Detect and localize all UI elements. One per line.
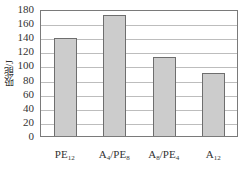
y-tick-label: 140 [8, 32, 34, 43]
bar-a8-pe4 [153, 57, 176, 136]
y-tick-label: 40 [8, 103, 34, 114]
y-tick-label: 20 [8, 117, 34, 128]
bar-pe12 [54, 38, 77, 136]
y-tick-label: 0 [8, 131, 34, 142]
plot-area [40, 10, 238, 137]
bar-a4-pe8 [103, 15, 126, 136]
y-tick-label: 60 [8, 89, 34, 100]
y-tick-label: 160 [8, 18, 34, 29]
y-tick-label: 120 [8, 46, 34, 57]
gridline [41, 25, 237, 26]
y-tick-label: 80 [8, 75, 34, 86]
x-tick-label: A12 [183, 148, 240, 162]
y-tick-label: 180 [8, 4, 34, 15]
bar-a12 [202, 73, 225, 136]
y-tick-label: 100 [8, 60, 34, 71]
